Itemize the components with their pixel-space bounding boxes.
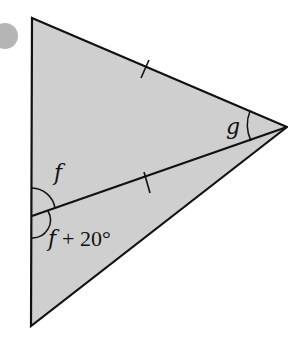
angle-label-plus-20: + 20° [62, 226, 111, 251]
question-marker [0, 23, 18, 49]
angle-label-g: g [226, 114, 240, 139]
triangle-diagram: f f + 20° g [0, 0, 288, 348]
